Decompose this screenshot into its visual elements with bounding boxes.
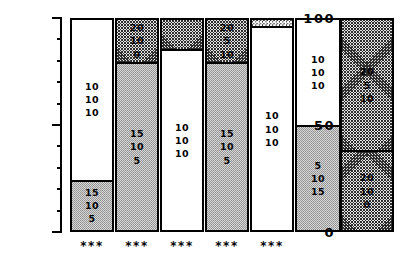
bar-6-segment-1: 101010: [297, 20, 339, 125]
segment-value: 10: [265, 109, 279, 122]
bar-3[interactable]: 101010: [160, 18, 204, 232]
segment-value: 0: [133, 48, 140, 61]
segment-value: 10: [85, 106, 99, 119]
segment-value-group: 51015: [311, 159, 325, 198]
bar-6-segment-2: 51015: [297, 125, 339, 230]
segment-value: 10: [130, 140, 144, 153]
segment-value: 5: [88, 212, 95, 225]
segment-value: 10: [360, 92, 374, 105]
segment-value-group: 20510: [220, 21, 234, 60]
significance-mark-bar-2: ***: [115, 240, 159, 252]
segment-value: 10: [311, 53, 325, 66]
segment-value: 10: [175, 147, 189, 160]
segment-value: 20: [130, 21, 144, 34]
significance-row: ***************: [62, 240, 401, 256]
segment-value: 10: [311, 66, 325, 79]
segment-value: 20: [360, 65, 374, 78]
segment-value-group: 101010: [85, 80, 99, 119]
segment-value: 10: [311, 172, 325, 185]
segment-value: 10: [360, 185, 374, 198]
bar-7-segment-1: 20510: [342, 20, 392, 150]
segment-value: 10: [130, 34, 144, 47]
y-axis-tick-label: 100: [303, 11, 335, 26]
bar-7[interactable]: 2051020100: [340, 18, 394, 232]
bar-3-segment-2: 101010: [162, 49, 202, 230]
bar-3-segment-1: [162, 20, 202, 49]
segment-value-group: 15105: [85, 186, 99, 225]
bar-4-segment-1: 20510: [207, 20, 247, 62]
segment-value: 10: [220, 140, 234, 153]
segment-value-group: 101010: [311, 53, 325, 92]
segment-value: 10: [175, 121, 189, 134]
segment-value: 15: [311, 185, 325, 198]
segment-value: 10: [85, 80, 99, 93]
significance-mark-bar-5: ***: [250, 240, 294, 252]
significance-mark-bar-1: ***: [70, 240, 114, 252]
chart-figure: intake ( % ) 101010151052010015105101010…: [0, 0, 401, 268]
bar-1-segment-1: 101010: [72, 20, 112, 180]
bar-4[interactable]: 2051015105: [205, 18, 249, 232]
segment-value: 10: [265, 123, 279, 136]
bar-1[interactable]: 10101015105: [70, 18, 114, 232]
bar-1-segment-2: 15105: [72, 180, 112, 230]
segment-value: 15: [85, 186, 99, 199]
bar-4-segment-2: 15105: [207, 62, 247, 230]
segment-value: 15: [130, 127, 144, 140]
segment-value: 5: [133, 154, 140, 167]
y-axis: [52, 18, 62, 232]
segment-value: 10: [220, 48, 234, 61]
segment-value: 10: [311, 79, 325, 92]
y-axis-tick-major: [52, 17, 62, 19]
segment-value: 10: [265, 136, 279, 149]
segment-value: 20: [360, 171, 374, 184]
significance-mark-bar-4: ***: [205, 240, 249, 252]
segment-value-group: 15105: [220, 127, 234, 166]
segment-value: 10: [85, 93, 99, 106]
segment-value-group: 101010: [175, 121, 189, 160]
plot-area: 1010101510520100151051010102051015105101…: [62, 18, 401, 232]
bar-2-segment-2: 15105: [117, 62, 157, 230]
significance-mark-bar-3: ***: [160, 240, 204, 252]
segment-value: 5: [314, 159, 321, 172]
bar-5[interactable]: 101010: [250, 18, 294, 232]
segment-value: 5: [223, 154, 230, 167]
segment-value: 0: [363, 198, 370, 211]
y-axis-tick-major: [52, 231, 62, 233]
segment-value-group: 15105: [130, 127, 144, 166]
segment-value: 10: [175, 134, 189, 147]
segment-value: 5: [223, 34, 230, 47]
bar-5-segment-2: 101010: [252, 26, 292, 230]
y-axis-tick-label: 0: [324, 225, 335, 240]
segment-value: 20: [220, 21, 234, 34]
y-axis-tick-label: 50: [314, 118, 335, 133]
bar-2-segment-1: 20100: [117, 20, 157, 62]
segment-value-group: 20510: [360, 65, 374, 104]
bar-2[interactable]: 2010015105: [115, 18, 159, 232]
segment-value: 10: [85, 199, 99, 212]
segment-value: 15: [220, 127, 234, 140]
segment-value: 5: [363, 79, 370, 92]
segment-value-group: 20100: [360, 171, 374, 210]
segment-value-group: 20100: [130, 21, 144, 60]
segment-value-group: 101010: [265, 109, 279, 148]
y-axis-tick-major: [52, 124, 62, 126]
bar-7-segment-2: 20100: [342, 150, 392, 230]
